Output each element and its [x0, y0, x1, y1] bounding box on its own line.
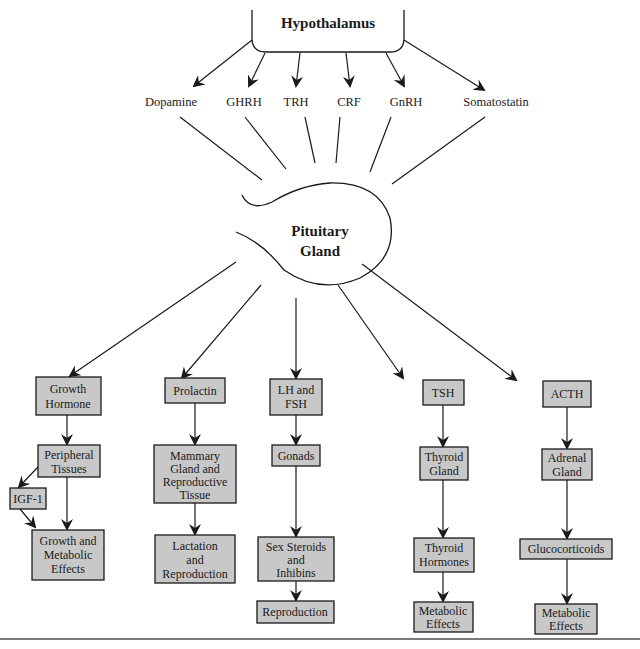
hypothalamus-arrows: [194, 40, 484, 90]
hormone-label-ghrh: GHRH: [226, 95, 261, 109]
hormone-label-somatostatin: Somatostatin: [463, 95, 529, 109]
svg-text:Effects: Effects: [426, 617, 460, 631]
pituitary-label-line1: Pituitary: [291, 223, 349, 239]
hormone-label-crf: CRF: [337, 95, 361, 109]
box-acth: ACTH: [543, 381, 591, 407]
pituitary-gland-node: Pituitary Gland: [236, 183, 391, 285]
svg-text:IGF-1: IGF-1: [13, 492, 42, 506]
svg-text:Hormones: Hormones: [419, 555, 469, 569]
box-tsh: TSH: [423, 380, 464, 405]
column-growth-hormone: Growth Hormone Peripheral Tissues IGF-1 …: [10, 377, 104, 580]
svg-text:FSH: FSH: [285, 397, 307, 411]
svg-text:LH and: LH and: [278, 383, 314, 397]
box-prolactin: Prolactin: [165, 378, 225, 403]
svg-text:Sex Steroids: Sex Steroids: [266, 540, 327, 554]
hormone-label-dopamine: Dopamine: [145, 95, 198, 109]
box-growth-hormone: Growth Hormone: [36, 377, 101, 415]
box-reproduction: Reproduction: [257, 601, 334, 623]
svg-text:Tissues: Tissues: [51, 462, 87, 476]
box-thyroid-hormones: Thyroid Hormones: [414, 538, 474, 572]
svg-text:Glucocorticoids: Glucocorticoids: [528, 542, 605, 556]
box-growth-metabolic-effects: Growth and Metabolic Effects: [32, 530, 104, 580]
svg-text:Lactation: Lactation: [172, 539, 217, 553]
box-adrenal-gland: Adrenal Gland: [542, 449, 592, 480]
column-lh-fsh: LH and FSH Gonads Sex Steroids and Inhib…: [257, 379, 334, 623]
box-thyroid-gland: Thyroid Gland: [420, 447, 468, 480]
svg-text:Reproduction: Reproduction: [262, 605, 327, 619]
svg-text:Prolactin: Prolactin: [173, 384, 216, 398]
svg-text:Inhibins: Inhibins: [276, 566, 316, 580]
box-gonads: Gonads: [272, 445, 320, 466]
svg-text:Hormone: Hormone: [45, 397, 90, 411]
svg-text:Mammary: Mammary: [170, 449, 220, 463]
svg-text:Reproduction: Reproduction: [162, 567, 227, 581]
svg-text:Tissue: Tissue: [180, 488, 211, 502]
hormone-label-gnrh: GnRH: [390, 95, 423, 109]
box-metabolic-effects-tsh: Metabolic Effects: [414, 602, 473, 632]
hypothalamic-hormone-labels: Dopamine GHRH TRH CRF GnRH Somatostatin: [145, 95, 529, 109]
svg-text:Effects: Effects: [51, 562, 85, 576]
svg-text:Gland and: Gland and: [170, 462, 220, 476]
box-sex-steroids-inhibins: Sex Steroids and Inhibins: [258, 537, 334, 581]
pituitary-label-line2: Gland: [300, 243, 341, 259]
svg-text:Metabolic: Metabolic: [419, 604, 468, 618]
svg-text:Thyroid: Thyroid: [425, 541, 464, 555]
svg-text:Growth and: Growth and: [40, 534, 97, 548]
box-lh-fsh: LH and FSH: [270, 379, 322, 415]
svg-text:Thyroid: Thyroid: [425, 450, 464, 464]
column-tsh: TSH Thyroid Gland Thyroid Hormones Metab…: [414, 380, 474, 632]
hypothalamus-node: Hypothalamus: [252, 10, 404, 52]
box-glucocorticoids: Glucocorticoids: [520, 539, 612, 559]
svg-text:Gland: Gland: [429, 464, 458, 478]
box-igf-1: IGF-1: [10, 488, 46, 509]
svg-text:and: and: [287, 553, 304, 567]
svg-text:and: and: [186, 553, 203, 567]
pituitary-arrows: [70, 262, 516, 380]
svg-text:TSH: TSH: [432, 386, 455, 400]
box-peripheral-tissues: Peripheral Tissues: [38, 445, 100, 477]
svg-text:Growth: Growth: [50, 382, 87, 396]
bottom-divider: [0, 638, 640, 640]
svg-text:Gland: Gland: [552, 465, 581, 479]
endocrine-diagram: Hypothalamus Dopamine GHRH TRH CRF GnRH …: [0, 0, 640, 649]
svg-text:Peripheral: Peripheral: [44, 448, 94, 462]
box-mammary-gland: Mammary Gland and Reproductive Tissue: [154, 445, 236, 503]
hypothalamus-label: Hypothalamus: [281, 15, 375, 31]
svg-text:Metabolic: Metabolic: [44, 548, 93, 562]
hormone-label-trh: TRH: [284, 95, 309, 109]
svg-text:Adrenal: Adrenal: [548, 451, 587, 465]
column-acth: ACTH Adrenal Gland Glucocorticoids Metab…: [520, 381, 612, 634]
box-lactation-reproduction: Lactation and Reproduction: [155, 535, 235, 583]
svg-text:Reproductive: Reproductive: [163, 475, 228, 489]
hormone-to-pituitary-lines: [180, 117, 485, 184]
column-prolactin: Prolactin Mammary Gland and Reproductive…: [154, 378, 236, 583]
box-metabolic-effects-acth: Metabolic Effects: [535, 604, 597, 634]
svg-text:Effects: Effects: [549, 619, 583, 633]
svg-text:Metabolic: Metabolic: [542, 606, 591, 620]
svg-text:Gonads: Gonads: [278, 449, 315, 463]
svg-text:ACTH: ACTH: [551, 387, 584, 401]
